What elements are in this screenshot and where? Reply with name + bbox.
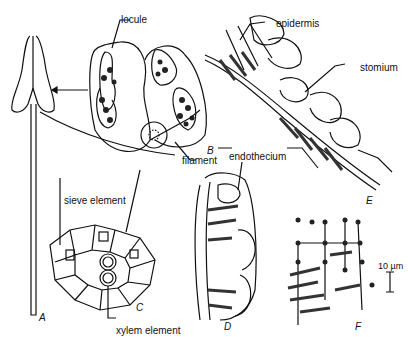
- panel-b-anther: [90, 42, 207, 152]
- panel-label-e: E: [366, 196, 373, 206]
- label-scale-bar: 10 µm: [378, 262, 403, 271]
- label-epidermis: epidermis: [276, 19, 319, 29]
- panel-label-a: A: [39, 313, 46, 323]
- label-stomium: stomium: [360, 63, 398, 73]
- panel-label-c: C: [136, 303, 143, 313]
- panel-label-b: B: [207, 146, 214, 156]
- label-xylem-element: xylem element: [116, 326, 180, 336]
- panel-a-stamen: [12, 36, 175, 315]
- stomium-leader: [305, 64, 345, 92]
- label-endothecium: endothecium: [229, 152, 286, 162]
- label-filament: filament: [182, 156, 217, 166]
- panel-c-filament-section: [50, 170, 155, 318]
- panel-label-d: D: [224, 322, 231, 332]
- label-locule: locule: [121, 15, 147, 25]
- panel-label-f: F: [355, 322, 361, 332]
- diagram-artwork: [0, 0, 408, 337]
- label-sieve-element: sieve element: [64, 196, 126, 206]
- panel-e-stomium: [205, 16, 392, 190]
- anther-diagram-figure: locule epidermis stomium filament endoth…: [0, 0, 408, 337]
- panel-d-wall-section: [195, 162, 256, 320]
- panel-f-thickenings: [288, 218, 394, 326]
